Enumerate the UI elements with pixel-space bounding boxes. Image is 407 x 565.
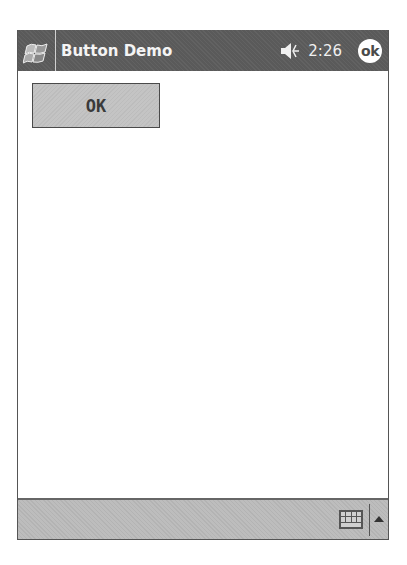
separator — [369, 504, 370, 536]
start-button[interactable] — [18, 30, 56, 71]
clock[interactable]: 2:26 — [308, 42, 342, 60]
pocket-pc-screen: Button Demo 2:26 ok OK — [17, 30, 389, 540]
app-title: Button Demo — [61, 42, 280, 60]
windows-flag-icon — [23, 38, 51, 64]
menu-bar — [18, 498, 388, 539]
ok-close-button[interactable]: ok — [358, 39, 382, 63]
keyboard-icon[interactable] — [339, 510, 363, 529]
app-content: OK — [18, 71, 388, 499]
up-arrow-icon[interactable] — [374, 516, 384, 522]
navigation-bar: Button Demo 2:26 ok — [18, 30, 388, 71]
ok-button[interactable]: OK — [32, 83, 160, 128]
volume-button[interactable] — [280, 42, 302, 60]
speaker-icon — [280, 42, 302, 60]
